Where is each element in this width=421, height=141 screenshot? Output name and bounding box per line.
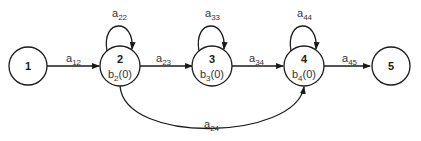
node-1: 1 (9, 47, 47, 85)
state-diagram: a12 a22 a23 a33 a34 a44 a45 a24 1 2 b2(0… (0, 0, 421, 141)
node-3: 3 b3(0) (192, 46, 232, 86)
edge-label-24: a24 (204, 118, 220, 133)
edge-label-23: a23 (156, 52, 172, 67)
node-5: 5 (372, 47, 410, 85)
edge-label-45: a45 (342, 52, 358, 67)
edge-label-44: a44 (297, 7, 313, 22)
node-4: 4 b4(0) (284, 46, 324, 86)
edge-label-34: a34 (249, 52, 265, 67)
edge-label-22: a22 (112, 7, 128, 22)
edge-label-12: a12 (66, 52, 82, 67)
svg-text:5: 5 (388, 60, 394, 72)
svg-text:3: 3 (209, 53, 215, 65)
svg-text:2: 2 (117, 53, 123, 65)
svg-text:4: 4 (301, 53, 308, 65)
edge-label-33: a33 (205, 7, 221, 22)
svg-text:1: 1 (25, 60, 31, 72)
node-2: 2 b2(0) (100, 46, 140, 86)
edge-2-4 (120, 86, 304, 129)
